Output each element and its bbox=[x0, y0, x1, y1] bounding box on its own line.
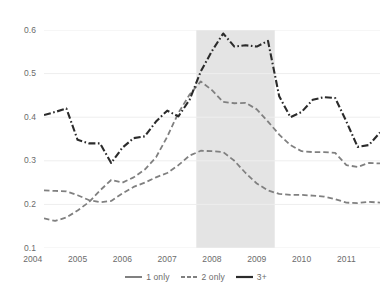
recession-band bbox=[196, 30, 274, 248]
y-axis-tick-label: 0.6 bbox=[10, 26, 36, 35]
x-axis-tick-label: 2009 bbox=[237, 255, 277, 264]
shaded-region-layer bbox=[196, 30, 274, 248]
x-axis-tick-label: 2004 bbox=[13, 255, 53, 264]
y-axis-tick-label: 0.3 bbox=[10, 156, 36, 165]
chart-container: 0.10.20.30.40.50.6 200420052006200720082… bbox=[0, 0, 392, 296]
plot-area bbox=[44, 30, 380, 248]
y-axis-tick-label: 0.2 bbox=[10, 200, 36, 209]
legend-item[interactable]: 2 only bbox=[181, 272, 225, 282]
x-axis-tick-label: 2005 bbox=[58, 255, 98, 264]
legend-item-label: 2 only bbox=[202, 272, 225, 282]
chart-legend: 1 only2 only3+ bbox=[0, 272, 392, 282]
legend-item-label: 3+ bbox=[257, 272, 267, 282]
legend-item-label: 1 only bbox=[146, 272, 169, 282]
y-axis-tick-label: 0.1 bbox=[10, 244, 36, 253]
line-chart-svg bbox=[44, 30, 380, 248]
legend-swatch-icon bbox=[125, 273, 142, 281]
legend-item[interactable]: 1 only bbox=[125, 272, 169, 282]
x-axis-tick-label: 2011 bbox=[326, 255, 366, 264]
x-axis-tick-label: 2006 bbox=[102, 255, 142, 264]
y-axis-tick-label: 0.5 bbox=[10, 69, 36, 78]
y-axis-tick-label: 0.4 bbox=[10, 113, 36, 122]
x-axis-tick-label: 2010 bbox=[282, 255, 322, 264]
legend-item[interactable]: 3+ bbox=[236, 272, 267, 282]
legend-swatch-icon bbox=[236, 273, 253, 281]
legend-swatch-icon bbox=[181, 273, 198, 281]
x-axis-tick-label: 2007 bbox=[147, 255, 187, 264]
x-axis-tick-label: 2008 bbox=[192, 255, 232, 264]
